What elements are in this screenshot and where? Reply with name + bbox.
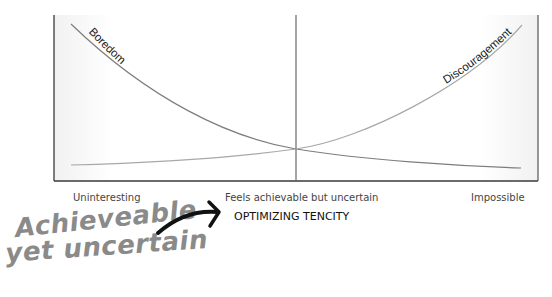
x-label-impossible: Impossible — [471, 192, 525, 203]
tenacity-diagram: Boredom Discouragement Uninteresting Fee… — [0, 0, 552, 297]
x-axis-title: OPTIMIZING TENCITY — [234, 210, 350, 223]
x-label-feels-achievable: Feels achievable but uncertain — [225, 192, 378, 203]
